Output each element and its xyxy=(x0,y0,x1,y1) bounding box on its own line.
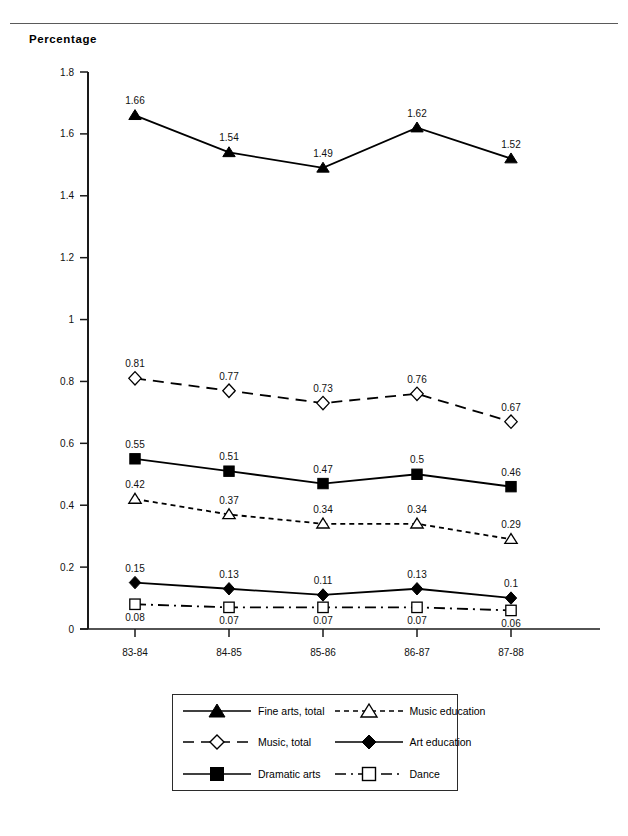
chart-page: Percentage 00.20.40.60.811.21.41.61.883-… xyxy=(0,0,628,836)
data-label: 0.81 xyxy=(125,358,145,369)
chart-legend: Fine arts, totalMusic educationMusic, to… xyxy=(172,694,458,791)
data-point-marker xyxy=(130,599,140,609)
data-label: 0.37 xyxy=(219,495,239,506)
data-point-marker xyxy=(506,481,516,491)
svg-text:87-88: 87-88 xyxy=(498,647,524,658)
legend-swatch xyxy=(333,763,405,785)
series-dramatic-arts: 0.550.510.470.50.46 xyxy=(125,439,521,492)
legend-item-music-education[interactable]: Music education xyxy=(325,700,486,722)
svg-text:1.2: 1.2 xyxy=(60,252,74,263)
svg-text:1.6: 1.6 xyxy=(60,128,74,139)
data-point-marker xyxy=(130,454,140,464)
data-label: 0.07 xyxy=(313,615,333,626)
legend-swatch xyxy=(181,731,253,753)
data-label: 1.54 xyxy=(219,132,239,143)
data-point-marker xyxy=(224,466,234,476)
svg-text:1.4: 1.4 xyxy=(60,190,74,201)
series-dance: 0.080.070.070.070.06 xyxy=(125,599,521,629)
data-label: 0.42 xyxy=(125,479,145,490)
data-label: 1.66 xyxy=(125,95,145,106)
series-art-education: 0.150.130.110.130.1 xyxy=(125,563,518,605)
data-label: 0.06 xyxy=(501,618,521,629)
data-label: 0.46 xyxy=(501,467,521,478)
svg-text:0.8: 0.8 xyxy=(60,376,74,387)
data-point-marker xyxy=(318,478,328,488)
data-point-marker xyxy=(317,396,329,409)
legend-item-music-total[interactable]: Music, total xyxy=(173,731,325,753)
data-label: 0.15 xyxy=(125,563,145,574)
legend-swatch xyxy=(181,700,253,722)
legend-item-label: Dance xyxy=(410,768,440,780)
data-label: 0.47 xyxy=(313,464,333,475)
legend-item-label: Music, total xyxy=(258,736,311,748)
data-point-marker xyxy=(317,518,329,528)
series-line xyxy=(135,115,511,168)
data-label: 0.07 xyxy=(219,615,239,626)
legend-item-label: Dramatic arts xyxy=(258,768,320,780)
series-fine-arts-total: 1.661.541.491.621.52 xyxy=(125,95,521,172)
data-label: 0.1 xyxy=(504,578,518,589)
svg-text:0.4: 0.4 xyxy=(60,500,74,511)
data-label: 0.76 xyxy=(407,374,427,385)
data-point-marker xyxy=(223,583,234,595)
data-point-marker xyxy=(223,384,235,397)
svg-text:84-85: 84-85 xyxy=(216,647,242,658)
legend-marker-open-diamond-icon xyxy=(210,735,224,749)
data-point-marker xyxy=(224,602,234,612)
legend-item-art-education[interactable]: Art education xyxy=(325,731,486,753)
series-music-total: 0.810.770.730.760.67 xyxy=(125,358,521,428)
legend-item-dance[interactable]: Dance xyxy=(325,763,486,785)
data-label: 1.62 xyxy=(407,108,427,119)
data-point-marker xyxy=(129,493,141,503)
data-label: 0.08 xyxy=(125,612,145,623)
data-label: 0.67 xyxy=(501,402,521,413)
data-label: 1.49 xyxy=(313,148,333,159)
data-label: 0.11 xyxy=(314,575,333,586)
data-label: 0.5 xyxy=(410,454,424,465)
data-label: 0.55 xyxy=(125,439,145,450)
data-label: 0.29 xyxy=(501,519,521,530)
line-chart-plot: 00.20.40.60.811.21.41.61.883-8484-8585-8… xyxy=(0,0,628,690)
legend-item-label: Fine arts, total xyxy=(258,705,325,717)
legend-marker-filled-square-icon xyxy=(211,768,224,781)
legend-swatch xyxy=(333,700,405,722)
data-label: 0.34 xyxy=(313,504,333,515)
data-label: 0.73 xyxy=(313,383,333,394)
svg-text:1.8: 1.8 xyxy=(60,67,74,78)
data-point-marker xyxy=(411,122,423,132)
data-point-marker xyxy=(129,110,141,120)
data-point-marker xyxy=(129,372,141,385)
svg-text:0: 0 xyxy=(68,624,74,635)
data-point-marker xyxy=(411,583,422,595)
legend-item-label: Music education xyxy=(410,705,486,717)
data-point-marker xyxy=(411,387,423,400)
svg-text:1: 1 xyxy=(68,314,74,325)
data-label: 0.51 xyxy=(219,451,239,462)
data-label: 0.34 xyxy=(407,504,427,515)
svg-text:83-84: 83-84 xyxy=(122,647,148,658)
legend-item-label: Art education xyxy=(410,736,472,748)
legend-swatch xyxy=(181,763,253,785)
data-point-marker xyxy=(506,605,516,615)
data-point-marker xyxy=(318,602,328,612)
svg-text:86-87: 86-87 xyxy=(404,647,430,658)
legend-item-fine-arts-total[interactable]: Fine arts, total xyxy=(173,700,325,722)
legend-item-dramatic-arts[interactable]: Dramatic arts xyxy=(173,763,325,785)
legend-swatch xyxy=(333,731,405,753)
data-point-marker xyxy=(505,592,516,604)
data-point-marker xyxy=(317,589,328,601)
legend-marker-open-square-icon xyxy=(362,768,375,781)
data-label: 0.77 xyxy=(219,371,239,382)
data-point-marker xyxy=(505,534,517,544)
data-label: 0.13 xyxy=(219,569,239,580)
data-label: 0.13 xyxy=(407,569,427,580)
legend-marker-filled-diamond-icon xyxy=(362,735,376,749)
data-point-marker xyxy=(412,602,422,612)
y-axis-ticks: 00.20.40.60.811.21.41.61.8 xyxy=(60,67,88,635)
chart-axes xyxy=(80,72,600,629)
data-point-marker xyxy=(412,469,422,479)
x-axis-ticks: 83-8484-8585-8686-8787-88 xyxy=(122,629,524,658)
svg-text:85-86: 85-86 xyxy=(310,647,336,658)
svg-text:0.2: 0.2 xyxy=(60,562,74,573)
data-label: 1.52 xyxy=(501,139,521,150)
